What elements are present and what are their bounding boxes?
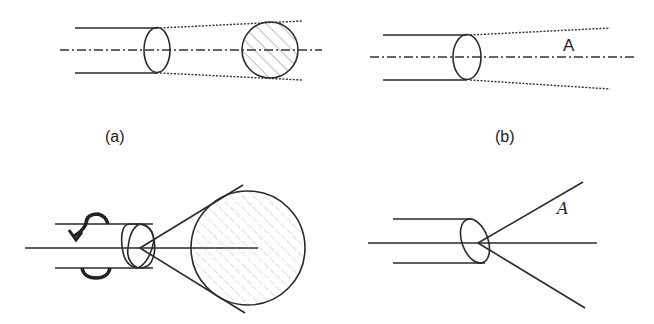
diagram-canvas: (a) A (b) A — [0, 0, 654, 324]
panel-label-a: (a) — [105, 128, 125, 145]
angle-label-a: A — [563, 36, 575, 55]
panel-a: (a) — [60, 20, 322, 145]
divergence-bottom — [470, 80, 610, 89]
panel-label-b: (b) — [495, 128, 515, 145]
rotating-aperture-2 — [128, 224, 154, 268]
tilted-aperture-ellipse — [455, 215, 495, 267]
divergence-top — [470, 28, 610, 35]
hatched-cross-section — [240, 20, 300, 80]
rotation-arrow-top-arc — [86, 214, 108, 224]
angle-label-a: A — [555, 199, 569, 218]
panel-b: A (b) — [370, 28, 636, 145]
panel-d: A — [368, 182, 597, 308]
spread-bottom-line — [478, 243, 585, 308]
panel-c — [25, 185, 306, 313]
rotation-arrow-bottom — [82, 268, 110, 278]
